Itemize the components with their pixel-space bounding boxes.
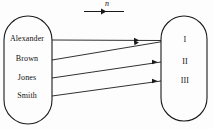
domain-item-jones: Jones <box>4 73 50 82</box>
arrowhead-smith-icon <box>152 79 158 84</box>
mapping-arrow-smith-to-iii <box>52 81 161 96</box>
arrowhead-jones-icon <box>152 60 158 65</box>
codomain-item-i: I <box>163 35 207 44</box>
mapping-arrows-group <box>52 38 161 96</box>
legend-arrowhead-icon <box>101 9 107 15</box>
codomain-set-oval <box>161 16 207 121</box>
mapping-arrow-jones-to-ii <box>52 62 161 78</box>
domain-item-smith: Smith <box>4 91 50 100</box>
mapping-arrow-alexander-to-i <box>52 40 161 41</box>
diagram-canvas: n Alexander Brown Jones Smith I II III <box>0 0 213 129</box>
legend-arrow-group <box>84 9 124 15</box>
codomain-item-iii: III <box>163 76 207 85</box>
mapping-arrow-brown-to-i <box>52 42 161 60</box>
domain-set-oval <box>4 16 52 124</box>
domain-item-alexander: Alexander <box>4 34 50 43</box>
legend-symbol-n: n <box>95 0 119 8</box>
domain-item-brown: Brown <box>4 54 50 63</box>
codomain-item-ii: II <box>163 57 207 66</box>
